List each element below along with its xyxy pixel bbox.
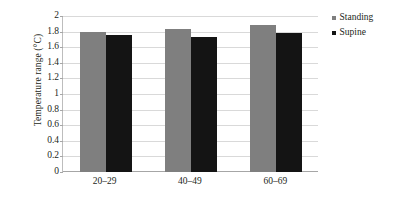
y-tick-label: 0.6 bbox=[30, 120, 59, 130]
bars-layer bbox=[63, 16, 318, 172]
legend-label: Supine bbox=[340, 28, 366, 38]
y-tick-label: 0.8 bbox=[30, 105, 59, 115]
y-tick-label: 2 bbox=[30, 11, 59, 21]
legend-swatch-icon bbox=[332, 31, 336, 35]
y-tick-label: 1.2 bbox=[30, 74, 59, 84]
bar-group bbox=[165, 16, 217, 172]
x-tick-label: 40–49 bbox=[147, 176, 232, 187]
bar-supine-60–69[interactable] bbox=[276, 33, 302, 172]
legend-label: Standing bbox=[340, 13, 374, 23]
bar-standing-60–69[interactable] bbox=[250, 25, 276, 172]
bar-standing-20–29[interactable] bbox=[80, 32, 106, 172]
bar-group bbox=[80, 16, 132, 172]
legend: StandingSupine bbox=[332, 11, 404, 41]
y-axis-tick-labels: 00.20.40.60.811.21.41.61.82 bbox=[30, 16, 59, 172]
y-tick-mark bbox=[60, 172, 63, 173]
x-tick-label: 20–29 bbox=[62, 176, 147, 187]
legend-item-standing[interactable]: Standing bbox=[332, 11, 404, 25]
bar-supine-20–29[interactable] bbox=[106, 35, 132, 172]
y-tick-label: 1.4 bbox=[30, 58, 59, 68]
x-tick-label: 60–69 bbox=[233, 176, 318, 187]
legend-swatch-icon bbox=[332, 16, 336, 20]
y-tick-label: 0 bbox=[30, 167, 59, 177]
legend-item-supine[interactable]: Supine bbox=[332, 26, 404, 40]
y-tick-label: 0.2 bbox=[30, 152, 59, 162]
x-axis-tick-labels: 20–2940–4960–69 bbox=[62, 176, 318, 192]
y-tick-label: 1 bbox=[30, 89, 59, 99]
bar-standing-40–49[interactable] bbox=[165, 29, 191, 172]
bar-supine-40–49[interactable] bbox=[191, 37, 217, 172]
plot-area bbox=[62, 16, 318, 172]
bar-chart: Temperature range (°C) 00.20.40.60.811.2… bbox=[0, 0, 407, 199]
y-tick-label: 1.8 bbox=[30, 27, 59, 37]
bar-group bbox=[250, 16, 302, 172]
y-tick-label: 0.4 bbox=[30, 136, 59, 146]
y-tick-label: 1.6 bbox=[30, 42, 59, 52]
